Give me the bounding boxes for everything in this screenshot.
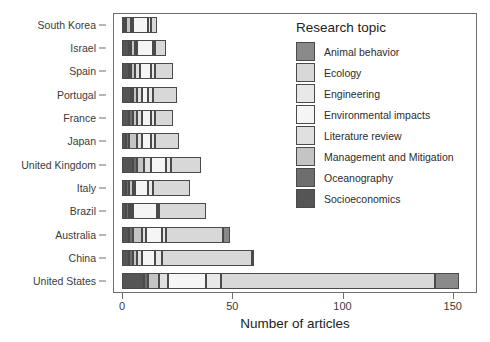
y-axis: South KoreaIsraelSpainPortugalFranceJapa… <box>0 13 108 293</box>
bar-segment <box>129 133 138 149</box>
y-tick-label-australia: Australia <box>55 229 96 241</box>
legend-item: Animal behavior <box>252 41 470 62</box>
bar-segment <box>155 40 166 56</box>
legend-label: Socioeconomics <box>324 193 400 205</box>
y-tick-label-united-states: United States <box>33 275 96 287</box>
bar-segment <box>122 227 129 243</box>
bar-segment <box>223 227 230 243</box>
y-tick-label-portugal: Portugal <box>57 89 96 101</box>
bar-segment <box>140 63 151 79</box>
bar-chart: South KoreaIsraelSpainPortugalFranceJapa… <box>0 0 490 342</box>
x-tick-mark <box>122 293 123 299</box>
bar-segment <box>221 273 435 289</box>
legend-label: Environmental impacts <box>324 109 430 121</box>
bar-segment <box>162 250 252 266</box>
y-tick-mark <box>99 141 106 142</box>
bar-segment <box>135 180 148 196</box>
bar-segment <box>133 203 157 219</box>
y-tick-label-france: France <box>63 112 96 124</box>
bar-row <box>113 227 477 243</box>
bar-segment <box>166 227 223 243</box>
bar-segment <box>142 110 151 126</box>
y-tick-mark <box>99 118 106 119</box>
y-tick-mark <box>99 164 106 165</box>
legend-title: Research topic <box>296 20 470 35</box>
bar-segment <box>159 273 168 289</box>
bar-segment <box>122 273 144 289</box>
x-tick-label: 150 <box>444 300 462 312</box>
y-tick-mark <box>99 281 106 282</box>
bar-segment <box>435 273 459 289</box>
bar-segment <box>159 203 205 219</box>
legend-label: Engineering <box>324 88 380 100</box>
y-tick-label-spain: Spain <box>69 65 96 77</box>
legend-label: Literature review <box>324 130 402 142</box>
bar-segment <box>151 17 158 33</box>
y-tick-label-israel: Israel <box>70 42 96 54</box>
y-tick-mark <box>99 71 106 72</box>
chart-legend: Research topic Animal behaviorEcologyEng… <box>252 20 470 209</box>
legend-swatch <box>296 63 315 82</box>
legend-swatch <box>296 126 315 145</box>
x-tick-label: 50 <box>226 300 238 312</box>
legend-swatch <box>296 147 315 166</box>
bar-segment <box>146 227 161 243</box>
bar-segment <box>142 87 149 103</box>
bar-row <box>113 273 477 289</box>
bar-segment <box>122 250 129 266</box>
x-tick-label: 100 <box>333 300 351 312</box>
legend-item: Oceanography <box>252 167 470 188</box>
y-tick-mark <box>99 24 106 25</box>
legend-swatch <box>296 105 315 124</box>
y-tick-mark <box>99 258 106 259</box>
y-tick-label-japan: Japan <box>67 135 96 147</box>
bar-segment <box>122 63 129 79</box>
legend-item: Environmental impacts <box>252 104 470 125</box>
bar-segment <box>122 87 131 103</box>
y-tick-label-united-kingdom: United Kingdom <box>21 159 96 171</box>
legend-swatch <box>296 168 315 187</box>
bar-segment <box>168 273 205 289</box>
legend-label: Ecology <box>324 67 361 79</box>
y-tick-mark <box>99 211 106 212</box>
legend-label: Oceanography <box>324 172 393 184</box>
legend-item: Ecology <box>252 62 470 83</box>
legend-items: Animal behaviorEcologyEngineeringEnviron… <box>252 41 470 209</box>
x-axis: 050100150 <box>113 293 477 313</box>
legend-swatch <box>296 84 315 103</box>
y-tick-mark <box>99 234 106 235</box>
bar-segment <box>144 157 151 173</box>
bar-segment <box>252 250 254 266</box>
legend-swatch <box>296 189 315 208</box>
legend-item: Engineering <box>252 83 470 104</box>
bar-segment <box>153 87 177 103</box>
bar-segment <box>148 273 159 289</box>
y-tick-label-china: China <box>69 252 96 264</box>
y-tick-label-south-korea: South Korea <box>38 19 96 31</box>
bar-segment <box>153 180 190 196</box>
legend-item: Socioeconomics <box>252 188 470 209</box>
bar-segment <box>171 157 202 173</box>
bar-segment <box>122 40 129 56</box>
y-tick-label-brazil: Brazil <box>70 205 96 217</box>
bar-segment <box>155 133 179 149</box>
x-tick-mark <box>343 293 344 299</box>
y-tick-mark <box>99 94 106 95</box>
legend-item: Literature review <box>252 125 470 146</box>
bar-segment <box>122 110 129 126</box>
bar-segment <box>142 133 151 149</box>
bar-segment <box>155 110 173 126</box>
bar-segment <box>137 40 152 56</box>
bar-segment <box>133 17 148 33</box>
bar-segment <box>151 157 166 173</box>
x-axis-title: Number of articles <box>113 316 477 331</box>
bar-segment <box>122 157 133 173</box>
y-tick-label-italy: Italy <box>77 182 96 194</box>
legend-label: Management and Mitigation <box>324 151 454 163</box>
bar-segment <box>155 250 162 266</box>
bar-segment <box>206 273 221 289</box>
bar-segment <box>137 157 144 173</box>
y-tick-mark <box>99 188 106 189</box>
legend-swatch <box>296 42 315 61</box>
legend-item: Management and Mitigation <box>252 146 470 167</box>
